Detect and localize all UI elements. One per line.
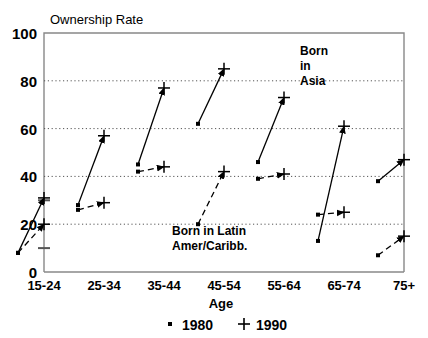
series-arrow-asia bbox=[198, 69, 224, 124]
y-tick-label: 80 bbox=[20, 73, 37, 90]
series-arrow-asia bbox=[138, 88, 164, 164]
x-tick-label: 55-64 bbox=[267, 278, 301, 293]
x-tick-label: 25-34 bbox=[87, 278, 121, 293]
marker-1980-dot bbox=[136, 162, 140, 166]
marker-1980-dot bbox=[256, 177, 260, 181]
series-arrow-latin bbox=[378, 236, 404, 255]
marker-1980-dot bbox=[76, 208, 80, 212]
chart-annotation: Born bbox=[300, 44, 328, 58]
chart-annotation: Born in Latin bbox=[172, 224, 246, 238]
series-arrow-asia bbox=[318, 126, 344, 241]
chart-annotation: in bbox=[300, 59, 311, 73]
marker-1980-dot bbox=[376, 179, 380, 183]
chart-annotation: Asia bbox=[300, 74, 326, 88]
marker-1980-dot bbox=[136, 170, 140, 174]
series-arrow-latin bbox=[198, 172, 224, 225]
series-arrow-asia bbox=[78, 136, 104, 205]
chart-container: Ownership Rate02040608010015-2425-3435-4… bbox=[0, 0, 428, 338]
x-tick-label: 65-74 bbox=[327, 278, 361, 293]
series-arrow-latin bbox=[78, 203, 104, 210]
x-axis-label: Age bbox=[209, 296, 234, 311]
ownership-rate-line-chart: Ownership Rate02040608010015-2425-3435-4… bbox=[0, 0, 428, 338]
series-arrow-asia bbox=[258, 98, 284, 163]
legend-label-1980: 1980 bbox=[182, 317, 213, 333]
legend-dot-icon bbox=[168, 322, 172, 326]
y-tick-label: 40 bbox=[20, 168, 37, 185]
marker-1980-dot bbox=[256, 160, 260, 164]
x-tick-label: 15-24 bbox=[27, 278, 61, 293]
legend-label-1990: 1990 bbox=[256, 317, 287, 333]
chart-title: Ownership Rate bbox=[50, 12, 143, 27]
marker-1980-dot bbox=[316, 213, 320, 217]
y-tick-label: 60 bbox=[20, 121, 37, 138]
marker-1980-dot bbox=[196, 122, 200, 126]
chart-annotation: Amer/Caribb. bbox=[172, 239, 247, 253]
series-arrow-asia bbox=[378, 160, 404, 182]
x-tick-label: 35-44 bbox=[147, 278, 181, 293]
x-tick-label: 75+ bbox=[393, 278, 415, 293]
marker-1980-dot bbox=[76, 203, 80, 207]
marker-1980-dot bbox=[376, 253, 380, 257]
y-tick-label: 100 bbox=[12, 25, 37, 42]
x-tick-label: 45-54 bbox=[207, 278, 241, 293]
marker-1980-dot bbox=[316, 239, 320, 243]
marker-1980-dot bbox=[16, 251, 20, 255]
